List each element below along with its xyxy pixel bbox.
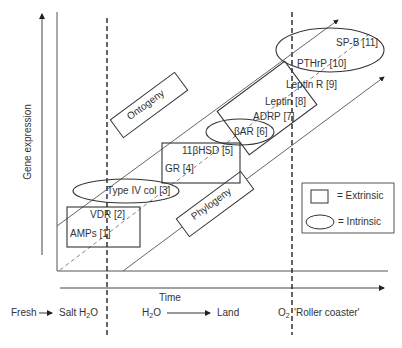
transition-roller-coaster: 'Roller coaster' [294,308,360,318]
legend-intrinsic-label: = Intrinsic [338,217,381,227]
gene-label-bar: βAR [6] [234,127,268,137]
y-axis-label: Gene expression [23,104,33,180]
transition-land: Land [217,308,239,318]
x-axis-label: Time [159,293,181,303]
o2-sub: 2 [286,312,290,319]
gene-label-adrp: ADRP [7] [253,112,295,122]
gene-label-type-iv-col: Type IV col [3] [107,186,170,196]
transition-salt-water: Salt H2O [59,308,98,319]
diagram-canvas [0,0,402,348]
gene-label-spb: SP-B [11] [336,38,378,48]
gene-label-gr: GR [4] [165,164,194,174]
gene-label-amps: AMPs [1] [70,229,111,239]
water-o: O [153,307,161,318]
gene-label-11bhsd: 11βHSD [5] [182,146,233,156]
gene-label-pthrp: PTHrP [10] [297,59,346,69]
gene-label-leptin: Leptin [8] [265,97,306,107]
legend-extrinsic-label: = Extrinsic [337,191,383,201]
transition-o2: O2 [278,308,290,319]
gene-label-leptin-r: Leptin R [9] [286,80,337,90]
o2-o: O [278,307,286,318]
transition-fresh: Fresh [11,308,37,318]
gene-label-vdr: VDR [2] [90,210,125,220]
ontogeny-line [57,20,338,226]
salt-o: O [90,307,98,318]
extrinsic-box-adrp-leptin [217,61,317,154]
transition-water: H2O [142,308,161,319]
salt-h: Salt H [59,307,86,318]
